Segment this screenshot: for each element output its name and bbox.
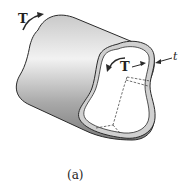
- label-torque-outer: T: [18, 12, 28, 25]
- figure-caption: (a): [67, 169, 84, 181]
- diagram-figure: T T t (a): [0, 0, 191, 189]
- label-thickness: t: [173, 51, 177, 62]
- label-torque-inner: T: [120, 60, 130, 73]
- tube-drawing: [0, 0, 191, 189]
- arrowhead-outer: [37, 12, 44, 18]
- thickness-arrowhead: [155, 59, 161, 64]
